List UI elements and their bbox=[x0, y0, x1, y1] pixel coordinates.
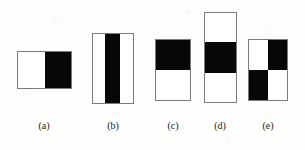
figure-e-cell-bottom-right-white bbox=[268, 70, 287, 100]
figure-b-cell-2-black bbox=[105, 34, 119, 103]
figure-d-three-row-pattern bbox=[204, 12, 237, 103]
figure-e-checkerboard-pattern bbox=[248, 39, 288, 101]
figure-e-cell-bottom-left-black bbox=[249, 70, 268, 100]
figure-a-cell-1-white bbox=[18, 52, 45, 88]
figure-b-caption: (b) bbox=[107, 120, 119, 131]
figure-c-caption: (c) bbox=[167, 120, 178, 131]
figure-c-two-row-pattern bbox=[155, 39, 191, 101]
figure-e-cell-top-left-white bbox=[249, 40, 268, 70]
figure-b-three-column-pattern bbox=[92, 33, 134, 104]
figure-a-two-column-pattern bbox=[17, 51, 72, 89]
figure-e-caption: (e) bbox=[262, 120, 273, 131]
figure-a-caption: (a) bbox=[38, 120, 49, 131]
figure-a-cell-2-black bbox=[45, 52, 72, 88]
figure-e-cell-top-right-black bbox=[268, 40, 287, 70]
figure-d-cell-1-white bbox=[205, 13, 236, 42]
figure-d-cell-2-black bbox=[205, 42, 236, 72]
figure-b-cell-1-white bbox=[93, 34, 105, 103]
figure-c-cell-2-white bbox=[156, 70, 190, 100]
figure-canvas: (a) (b) (c) (d) (e) bbox=[0, 0, 305, 150]
figure-d-caption: (d) bbox=[214, 120, 226, 131]
figure-b-cell-3-white bbox=[120, 34, 133, 103]
figure-c-cell-1-black bbox=[156, 40, 190, 70]
figure-d-cell-3-white bbox=[205, 73, 236, 102]
